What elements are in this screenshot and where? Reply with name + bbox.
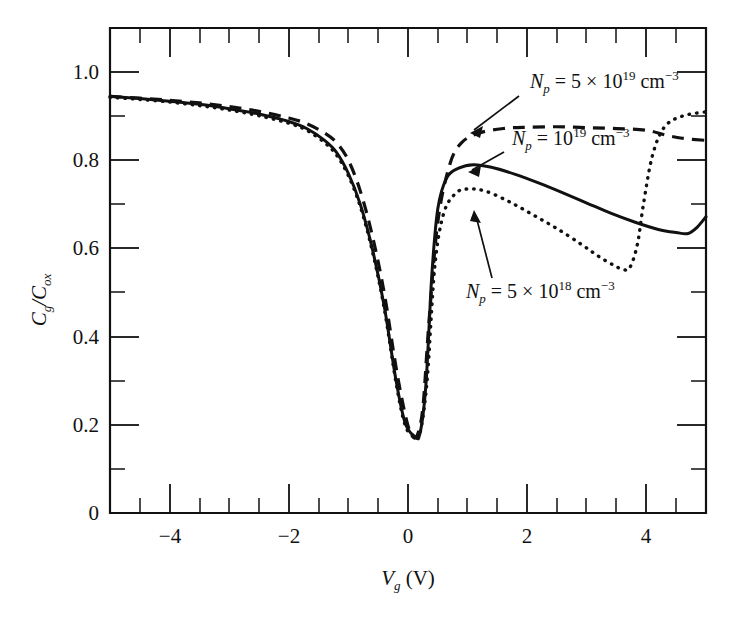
- annotation-label-5e19: Np = 5 × 1019 cm−3: [529, 68, 679, 96]
- y-axis-title-slash-c: /C: [27, 285, 51, 307]
- y-tick-label: 0.4: [73, 325, 100, 349]
- annot2-unit-exp: −3: [616, 125, 630, 140]
- y-tick-label: 0.6: [73, 236, 99, 260]
- capacitance-voltage-chart: 1.0 0.8 0.6 0.4 0.2 0 −4 −2 0 2 4 Cg/Cox…: [0, 0, 738, 617]
- figure-container: 1.0 0.8 0.6 0.4 0.2 0 −4 −2 0 2 4 Cg/Cox…: [0, 0, 738, 617]
- curve-np-5e18: [110, 97, 706, 439]
- arrow-to-5e18-curve: [470, 210, 492, 278]
- x-tick-label: 0: [403, 524, 414, 548]
- x-axis-ticks: [140, 28, 676, 513]
- x-tick-label: −4: [159, 524, 182, 548]
- annot1-eq: = 5 × 10: [550, 70, 623, 92]
- y-axis-title: Cg/Cox: [27, 273, 54, 326]
- y-tick-label: 0.8: [73, 148, 99, 172]
- annot3-unit: cm: [571, 280, 601, 302]
- x-tick-label: 2: [522, 524, 533, 548]
- y-axis-tick-labels: 1.0 0.8 0.6 0.4 0.2 0: [73, 60, 100, 525]
- annot3-unit-exp: −3: [601, 278, 615, 293]
- plot-frame: [110, 28, 706, 513]
- x-tick-label: 4: [641, 524, 652, 548]
- annotation-label-1e19: Np = 1019 cm−3: [511, 125, 629, 153]
- annot3-eq: = 5 × 10: [486, 280, 559, 302]
- annot1-exp: 19: [622, 68, 635, 83]
- annot2-unit: cm: [586, 127, 616, 149]
- y-axis-title-sub-ox: ox: [39, 273, 54, 286]
- data-curves: [110, 96, 706, 439]
- y-tick-label: 0.2: [73, 413, 99, 437]
- annotation-arrows: [468, 96, 519, 278]
- x-axis-tick-labels: −4 −2 0 2 4: [159, 524, 652, 548]
- annot1-unit-exp: −3: [665, 68, 679, 83]
- annot1-unit: cm: [635, 70, 665, 92]
- y-axis-title-c: C: [27, 311, 51, 326]
- y-tick-label: 1.0: [73, 60, 99, 84]
- svg-text:Vg (V): Vg (V): [381, 566, 435, 593]
- svg-text:Cg/Cox: Cg/Cox: [27, 273, 54, 326]
- x-tick-label: −2: [278, 524, 300, 548]
- y-tick-label: 0: [89, 501, 100, 525]
- annotation-label-5e18: Np = 5 × 1018 cm−3: [465, 278, 615, 306]
- annot2-eq: = 10: [532, 127, 573, 149]
- y-axis-minor-ticks: [110, 116, 706, 469]
- annot3-exp: 18: [558, 278, 571, 293]
- x-axis-title-unit: (V): [400, 566, 434, 590]
- x-axis-title: Vg (V): [381, 566, 435, 593]
- annot2-exp: 19: [573, 125, 586, 140]
